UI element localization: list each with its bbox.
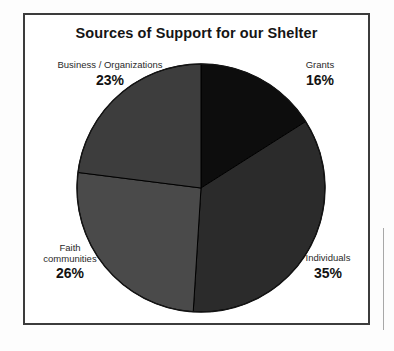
pie-label-grants: Grants 16% (278, 60, 362, 88)
chart-title: Sources of Support for our Shelter (25, 25, 368, 41)
pie-label-individuals-name: Individuals (290, 253, 366, 264)
pie-label-faith-communities-name-line2: communities (25, 254, 115, 265)
pie-label-individuals: Individuals 35% (290, 253, 366, 281)
pie-label-faith-communities: Faith communities 26% (25, 243, 115, 282)
pie-label-business-organizations: Business / Organizations 23% (30, 60, 190, 88)
pie-label-business-organizations-name: Business / Organizations (30, 60, 190, 71)
pie-label-faith-communities-percent: 26% (25, 266, 115, 282)
scanned-page-background: Sources of Support for our Shelter Busin… (0, 0, 394, 351)
pie-label-grants-name: Grants (278, 60, 362, 71)
pie-label-individuals-percent: 35% (290, 266, 366, 282)
pie-label-business-organizations-percent: 23% (30, 73, 190, 89)
pie-label-grants-percent: 16% (278, 73, 362, 89)
page-margin-rule (383, 228, 384, 330)
